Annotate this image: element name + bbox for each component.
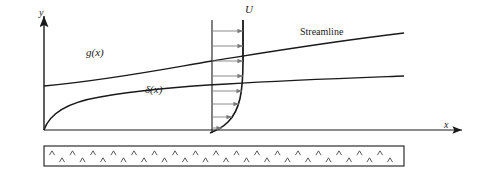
hatch-mark [264, 158, 269, 162]
hatch-mark [172, 151, 177, 155]
hatch-mark [90, 151, 95, 155]
hatch-mark [285, 158, 290, 162]
hatch-mark [162, 158, 167, 162]
hatch-mark [387, 158, 392, 162]
hatch-mark [346, 158, 351, 162]
hatch-mark [275, 151, 280, 155]
hatch-mark [182, 158, 187, 162]
hatch-mark [326, 158, 331, 162]
boundary-layer-diagram: y x U g(x) δ(x) Streamline [0, 0, 484, 175]
hatch-mark [49, 151, 54, 155]
hatch-mark [357, 151, 362, 155]
boundary-layer-delta-curve [44, 76, 404, 130]
hatch-mark [377, 151, 382, 155]
hatch-mark [316, 151, 321, 155]
hatch-mark [70, 151, 75, 155]
wall-surface [44, 146, 404, 166]
streamline-g-label: g(x) [86, 47, 104, 58]
hatch-mark [111, 151, 116, 155]
velocity-arrow-group [212, 31, 243, 128]
x-axis-label: x [444, 120, 448, 130]
velocity-profile-curve [210, 20, 243, 133]
hatch-mark [254, 151, 259, 155]
boundary-layer-thickness-label: δ(x) [145, 84, 162, 95]
hatch-mark [295, 151, 300, 155]
hatch-mark [244, 158, 249, 162]
hatch-mark [223, 158, 228, 162]
hatch-mark [100, 158, 105, 162]
hatch-mark [193, 151, 198, 155]
hatch-mark [367, 158, 372, 162]
y-axis-label: y [39, 8, 43, 18]
hatch-mark [203, 158, 208, 162]
hatch-mark [80, 158, 85, 162]
hatch-mark [213, 151, 218, 155]
hatch-mark [141, 158, 146, 162]
hatch-mark [59, 158, 64, 162]
hatch-mark [131, 151, 136, 155]
wall-hatch-marks [49, 151, 392, 162]
hatch-mark [336, 151, 341, 155]
diagram-canvas [0, 0, 484, 175]
hatch-mark [305, 158, 310, 162]
freestream-velocity-label: U [245, 4, 253, 15]
hatch-mark [234, 151, 239, 155]
hatch-mark [121, 158, 126, 162]
streamline-text-label: Streamline [300, 27, 343, 37]
hatch-mark [152, 151, 157, 155]
